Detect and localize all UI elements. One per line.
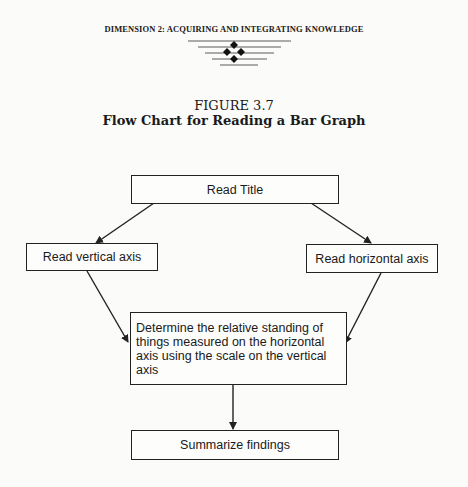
node-summarize-findings: Summarize findings xyxy=(131,430,339,460)
node-read-title: Read Title xyxy=(131,175,339,204)
node-label: Read horizontal axis xyxy=(315,252,428,266)
node-determine-standing: Determine the relative standing of thing… xyxy=(130,312,347,385)
node-label: Read vertical axis xyxy=(43,250,142,264)
node-read-vertical-axis: Read vertical axis xyxy=(26,243,158,271)
node-label: Read Title xyxy=(207,183,263,197)
node-label: Summarize findings xyxy=(180,438,290,452)
node-read-horizontal-axis: Read horizontal axis xyxy=(306,244,438,273)
node-label: Determine the relative standing of thing… xyxy=(136,321,341,377)
